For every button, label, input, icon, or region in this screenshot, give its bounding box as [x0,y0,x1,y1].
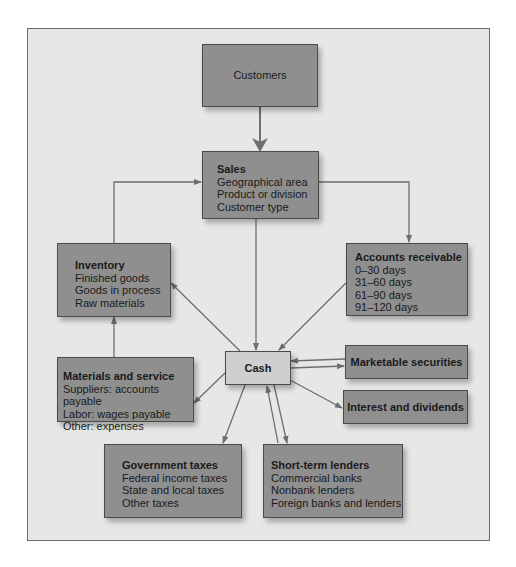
arrow-cash-to-interest [290,380,342,408]
node-sales-line: Product or division [217,188,318,201]
node-marketable-securities: Marketable securities [345,345,468,379]
node-materials-line: Suppliers: accounts payable [63,383,193,408]
node-inventory-title: Inventory [75,259,170,272]
arrow-cash-to-taxes [223,385,245,443]
node-sales-line: Customer type [217,201,318,214]
node-lenders-line: Foreign banks and lenders [271,497,402,510]
node-inventory: Inventory Finished goods Goods in proces… [57,243,171,317]
node-sales-title: Sales [217,163,318,176]
node-sales-line: Geographical area [217,176,318,189]
node-taxes-line: Other taxes [122,497,241,510]
node-receivables-line: 91–120 days [355,301,467,314]
node-inventory-line: Finished goods [75,272,170,285]
node-accounts-receivable: Accounts receivable 0–30 days 31–60 days… [346,243,468,316]
node-lenders-line: Nonbank lenders [271,484,402,497]
node-taxes-line: State and local taxes [122,484,241,497]
arrow-cash-to-securities [291,366,344,368]
node-inventory-line: Goods in process [75,284,170,297]
node-customers: Customers [202,44,318,107]
node-interest-dividends: Interest and dividends [343,390,468,424]
arrow-securities-to-cash [291,359,345,361]
node-materials-line: Labor: wages payable [63,408,193,421]
arrow-cash-to-materials [194,373,225,403]
node-taxes-line: Federal income taxes [122,472,241,485]
arrow-inventory-to-sales [114,182,201,243]
node-materials-service: Materials and service Suppliers: account… [57,357,194,422]
node-taxes-title: Government taxes [122,459,241,472]
node-receivables-line: 31–60 days [355,276,467,289]
arrow-cash-to-inventory [171,283,240,351]
node-materials-line: Other: expenses [63,420,193,433]
node-cash: Cash [225,351,291,385]
node-receivables-line: 61–90 days [355,289,467,302]
node-inventory-line: Raw materials [75,297,170,310]
node-customers-title: Customers [233,69,286,82]
node-sales: Sales Geographical area Product or divis… [202,151,319,219]
node-securities-title: Marketable securities [351,356,463,369]
node-short-term-lenders: Short-term lenders Commercial banks Nonb… [263,444,403,518]
arrow-receivables-to-cash [279,283,346,350]
node-cash-title: Cash [245,362,272,375]
node-lenders-title: Short-term lenders [271,459,402,472]
node-receivables-title: Accounts receivable [355,251,467,264]
node-government-taxes: Government taxes Federal income taxes St… [104,444,242,518]
arrow-sales-to-receivables [318,182,409,242]
node-receivables-line: 0–30 days [355,264,467,277]
node-lenders-line: Commercial banks [271,472,402,485]
node-interest-title: Interest and dividends [347,401,464,414]
node-materials-title: Materials and service [63,370,193,383]
